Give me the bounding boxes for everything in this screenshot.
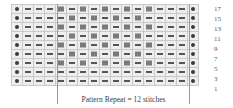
chart-cell[interactable]	[155, 77, 166, 86]
chart-cell[interactable]	[166, 50, 177, 59]
chart-cell[interactable]	[12, 50, 23, 59]
chart-cell[interactable]	[23, 41, 34, 50]
chart-cell[interactable]	[166, 5, 177, 14]
chart-cell[interactable]	[100, 14, 111, 23]
chart-cell[interactable]	[177, 50, 188, 59]
chart-cell[interactable]	[166, 77, 177, 86]
chart-cell[interactable]	[144, 68, 155, 77]
chart-cell[interactable]	[122, 68, 133, 77]
chart-cell[interactable]	[12, 5, 23, 14]
chart-cell[interactable]	[111, 14, 122, 23]
chart-cell[interactable]	[155, 32, 166, 41]
chart-cell[interactable]	[111, 68, 122, 77]
chart-cell[interactable]	[67, 59, 78, 68]
chart-cell[interactable]	[177, 14, 188, 23]
chart-cell[interactable]	[122, 77, 133, 86]
chart-cell[interactable]	[12, 23, 23, 32]
chart-cell[interactable]	[133, 68, 144, 77]
chart-cell[interactable]	[155, 14, 166, 23]
chart-cell[interactable]	[89, 23, 100, 32]
chart-cell[interactable]	[34, 68, 45, 77]
chart-cell[interactable]	[34, 77, 45, 86]
chart-cell[interactable]	[122, 14, 133, 23]
chart-cell[interactable]	[45, 14, 56, 23]
chart-cell[interactable]	[34, 5, 45, 14]
chart-cell[interactable]	[111, 41, 122, 50]
chart-cell[interactable]	[122, 50, 133, 59]
chart-cell[interactable]	[12, 77, 23, 86]
chart-cell[interactable]	[78, 50, 89, 59]
chart-cell[interactable]	[45, 50, 56, 59]
chart-cell[interactable]	[177, 23, 188, 32]
chart-cell[interactable]	[23, 77, 34, 86]
chart-cell[interactable]	[45, 5, 56, 14]
chart-cell[interactable]	[23, 32, 34, 41]
chart-cell[interactable]	[133, 77, 144, 86]
chart-cell[interactable]	[45, 59, 56, 68]
chart-cell[interactable]	[133, 50, 144, 59]
chart-cell[interactable]	[100, 68, 111, 77]
chart-cell[interactable]	[23, 59, 34, 68]
chart-cell[interactable]	[12, 32, 23, 41]
chart-cell[interactable]	[67, 77, 78, 86]
chart-cell[interactable]	[78, 23, 89, 32]
chart-cell[interactable]	[89, 32, 100, 41]
chart-cell[interactable]	[45, 32, 56, 41]
chart-cell[interactable]	[177, 32, 188, 41]
chart-cell[interactable]	[34, 14, 45, 23]
chart-cell[interactable]	[177, 77, 188, 86]
chart-cell[interactable]	[89, 77, 100, 86]
chart-cell[interactable]	[144, 5, 155, 14]
chart-cell[interactable]	[166, 59, 177, 68]
chart-cell[interactable]	[177, 5, 188, 14]
chart-cell[interactable]	[34, 59, 45, 68]
chart-cell[interactable]	[144, 32, 155, 41]
chart-cell[interactable]	[67, 41, 78, 50]
chart-cell[interactable]	[23, 14, 34, 23]
chart-cell[interactable]	[155, 23, 166, 32]
chart-cell[interactable]	[166, 23, 177, 32]
chart-cell[interactable]	[12, 14, 23, 23]
chart-cell[interactable]	[111, 23, 122, 32]
chart-cell[interactable]	[45, 77, 56, 86]
chart-cell[interactable]	[111, 5, 122, 14]
chart-cell[interactable]	[100, 50, 111, 59]
chart-cell[interactable]	[78, 68, 89, 77]
chart-cell[interactable]	[144, 59, 155, 68]
chart-cell[interactable]	[133, 32, 144, 41]
chart-cell[interactable]	[177, 41, 188, 50]
chart-cell[interactable]	[67, 50, 78, 59]
chart-cell[interactable]	[78, 59, 89, 68]
chart-cell[interactable]	[78, 5, 89, 14]
chart-cell[interactable]	[89, 50, 100, 59]
chart-cell[interactable]	[78, 41, 89, 50]
chart-cell[interactable]	[133, 41, 144, 50]
chart-cell[interactable]	[67, 23, 78, 32]
chart-cell[interactable]	[89, 59, 100, 68]
chart-cell[interactable]	[144, 23, 155, 32]
chart-cell[interactable]	[23, 23, 34, 32]
chart-cell[interactable]	[67, 14, 78, 23]
chart-cell[interactable]	[45, 68, 56, 77]
chart-cell[interactable]	[12, 41, 23, 50]
chart-cell[interactable]	[155, 50, 166, 59]
chart-cell[interactable]	[133, 14, 144, 23]
chart-cell[interactable]	[166, 32, 177, 41]
chart-cell[interactable]	[45, 41, 56, 50]
chart-cell[interactable]	[166, 68, 177, 77]
chart-cell[interactable]	[155, 5, 166, 14]
chart-cell[interactable]	[100, 41, 111, 50]
chart-cell[interactable]	[111, 50, 122, 59]
chart-cell[interactable]	[144, 14, 155, 23]
chart-cell[interactable]	[23, 5, 34, 14]
chart-cell[interactable]	[34, 41, 45, 50]
chart-cell[interactable]	[122, 41, 133, 50]
chart-cell[interactable]	[12, 68, 23, 77]
chart-cell[interactable]	[45, 23, 56, 32]
chart-cell[interactable]	[23, 68, 34, 77]
chart-cell[interactable]	[166, 41, 177, 50]
chart-cell[interactable]	[100, 32, 111, 41]
chart-cell[interactable]	[155, 59, 166, 68]
chart-cell[interactable]	[122, 5, 133, 14]
chart-cell[interactable]	[133, 23, 144, 32]
